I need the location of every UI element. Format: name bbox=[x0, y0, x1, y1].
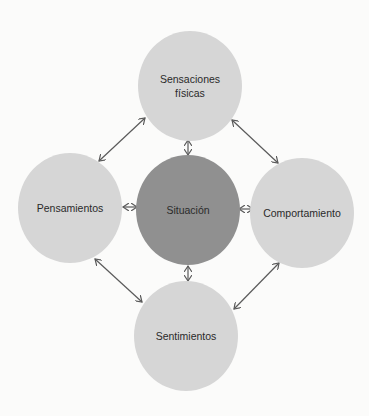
node-label: Comportamiento bbox=[263, 206, 341, 220]
node-label-line2: físicas bbox=[160, 86, 220, 100]
node-comportamiento: Comportamiento bbox=[250, 158, 354, 268]
node-label-line1: Sensaciones bbox=[160, 72, 220, 86]
arrow-comportamiento-sentimientos bbox=[234, 263, 279, 309]
arrow-pensamientos-sentimientos bbox=[95, 259, 142, 302]
node-label: Situación bbox=[166, 203, 209, 217]
node-label: Pensamientos bbox=[37, 201, 104, 215]
arrow-sensaciones-pensamientos bbox=[99, 118, 145, 161]
node-sentimientos: Sentimientos bbox=[134, 281, 238, 391]
arrow-sensaciones-comportamiento bbox=[232, 120, 278, 163]
node-situacion: Situación bbox=[136, 155, 240, 265]
node-pensamientos: Pensamientos bbox=[18, 153, 122, 263]
node-label: Sentimientos bbox=[156, 329, 217, 343]
node-sensaciones-fisicas: Sensaciones físicas bbox=[138, 31, 242, 141]
